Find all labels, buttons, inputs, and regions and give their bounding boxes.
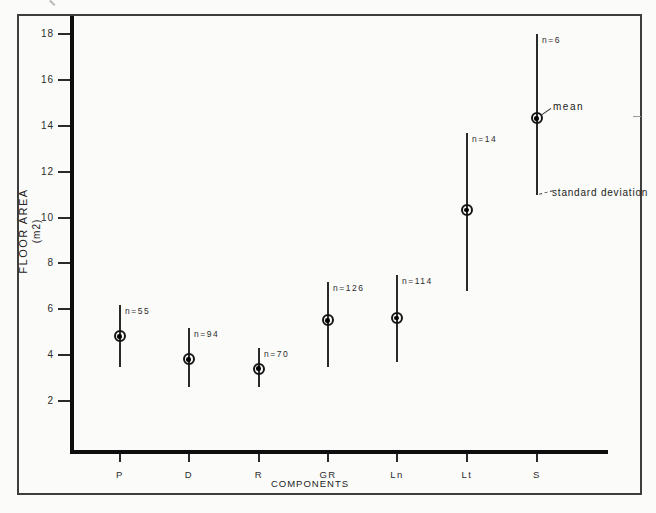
y-axis-tick-label: 2 [20,395,54,406]
x-axis-tick [396,454,398,462]
x-axis-tick [188,454,190,462]
x-axis-category-label: P [100,469,140,480]
mean-marker-dot [325,318,330,323]
x-axis-category-label: R [239,469,279,480]
y-axis-tick [58,33,70,35]
x-axis-category-label: S [517,469,557,480]
y-axis-tick-label: 12 [20,166,54,177]
x-axis-category-label: Lt [447,469,487,480]
mean-marker [114,330,126,342]
sample-size-label: n=6 [542,35,561,45]
y-axis-tick-label: 10 [20,212,54,223]
mean-marker [183,353,195,365]
sample-size-label: n=126 [333,283,364,293]
mean-marker-dot [117,334,122,339]
y-axis-tick-label: 14 [20,120,54,131]
y-axis-tick [58,125,70,127]
y-axis-tick-label: 6 [20,303,54,314]
mean-marker [322,314,334,326]
x-axis-line [70,450,608,454]
y-axis-tick-label: 4 [20,349,54,360]
y-axis-tick [58,262,70,264]
mean-marker-dot [186,357,191,362]
x-axis-tick [466,454,468,462]
mean-annotation-label: mean [553,101,584,112]
mean-marker-dot [464,208,469,213]
x-axis-tick [327,454,329,462]
mean-marker [531,112,543,124]
standard-deviation-annotation-label: standard deviation [552,187,648,198]
x-axis-category-label: D [169,469,209,480]
y-axis-tick [58,217,70,219]
mean-marker [253,363,265,375]
x-axis-category-label: GR [308,469,348,480]
outer-frame [17,14,642,495]
x-axis-tick [536,454,538,462]
chart-figure: FLOOR AREA (m2) COMPONENTS 2468101214161… [0,0,656,513]
y-axis-tick [58,354,70,356]
scan-artifact-mark [49,0,55,6]
x-axis-category-label: Ln [377,469,417,480]
sample-size-label: n=14 [472,134,497,144]
y-axis-tick [58,400,70,402]
y-axis-tick-label: 18 [20,28,54,39]
sample-size-label: n=55 [125,306,150,316]
y-axis-tick [58,308,70,310]
mean-marker-dot [256,366,261,371]
y-axis-tick [58,171,70,173]
y-axis-tick-label: 8 [20,257,54,268]
scan-artifact-tick [633,116,641,117]
y-axis-line [70,16,74,454]
sample-size-label: n=94 [194,329,219,339]
y-axis-tick [58,79,70,81]
sample-size-label: n=70 [264,349,289,359]
sample-size-label: n=114 [402,276,433,286]
mean-marker-dot [534,116,539,121]
mean-marker-dot [394,316,399,321]
x-axis-tick [258,454,260,462]
x-axis-tick [119,454,121,462]
y-axis-tick-label: 16 [20,74,54,85]
mean-marker [461,204,473,216]
mean-marker [391,312,403,324]
